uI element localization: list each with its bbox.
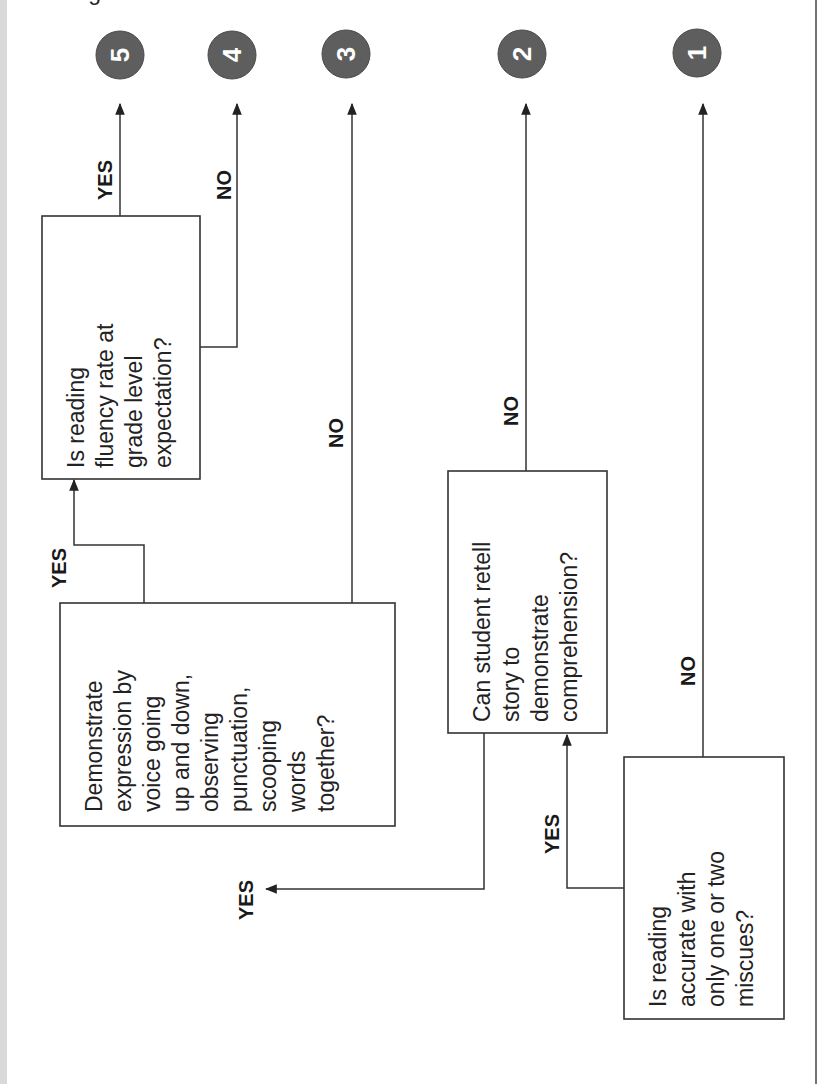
label-fluency-yes: YES	[94, 160, 116, 200]
retell-text-line: comprehension?	[556, 552, 582, 722]
outcome-5-icon: 5	[96, 31, 144, 79]
expression-text-line: voice going	[139, 696, 165, 812]
label-expression-yes: YES	[48, 548, 70, 588]
outcome-4-label: 4	[217, 47, 247, 62]
label-accuracy-no: NO	[677, 656, 699, 686]
label-expression-no: NO	[325, 418, 347, 448]
flowchart: 5 4 3 2 1 Is reading Is reading fluency	[0, 0, 832, 1084]
fluency-text-line: grade level	[121, 355, 147, 468]
label-retell-no: NO	[500, 396, 522, 426]
outcome-4-icon: 4	[208, 31, 256, 79]
accuracy-text-line: accurate with	[674, 871, 700, 1007]
outcome-1-label: 1	[682, 46, 712, 60]
retell-text-line: Can student retell	[469, 542, 495, 722]
expression-text-line: expression by	[110, 670, 136, 812]
expression-text-line: punctuation,	[226, 687, 252, 812]
edge-accuracy-yes	[567, 735, 624, 888]
outcome-2-icon: 2	[498, 30, 546, 78]
expression-text-line: scooping	[255, 720, 281, 812]
accuracy-text-line: only one or two	[703, 851, 729, 1007]
outcome-1-icon: 1	[673, 29, 721, 77]
outcome-3-label: 3	[331, 47, 361, 61]
label-accuracy-yes: YES	[541, 814, 563, 854]
outcome-5-label: 5	[105, 48, 135, 62]
outcome-2-label: 2	[507, 47, 537, 61]
expression-text-line: Demonstrate	[81, 680, 107, 812]
edge-fluency-no	[200, 104, 237, 347]
expression-text-line: together?	[313, 715, 339, 812]
outcome-3-icon: 3	[322, 30, 370, 78]
accuracy-text-line: Is reading	[645, 906, 671, 1007]
retell-text-line: demonstrate	[527, 594, 553, 722]
svg-text:Is reading: Is reading	[0, 0, 101, 5]
fluency-line-1: Is reading	[0, 0, 101, 5]
expression-text-line: words	[284, 751, 310, 813]
fluency-text-line: expectation?	[150, 338, 176, 468]
fluency-text-line: fluency rate at	[92, 323, 118, 468]
label-fluency-no: NO	[213, 170, 235, 200]
expression-text-line: up and down,	[168, 674, 194, 812]
edge-expression-yes	[74, 480, 144, 603]
label-retell-yes: YES	[235, 880, 257, 920]
fluency-text-line: Is reading	[63, 367, 89, 468]
accuracy-text-line: miscues?	[732, 910, 758, 1007]
expression-text-line: observing	[197, 712, 223, 812]
retell-text-line: story to	[498, 647, 524, 722]
